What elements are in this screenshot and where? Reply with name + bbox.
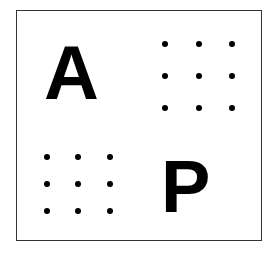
dot xyxy=(75,154,81,160)
dot xyxy=(75,181,81,187)
dot xyxy=(107,181,113,187)
dot xyxy=(229,73,235,79)
dot xyxy=(162,73,168,79)
letter-a: A xyxy=(44,35,99,111)
dot xyxy=(44,181,50,187)
dot xyxy=(229,105,235,111)
dot xyxy=(75,208,81,214)
letter-p: P xyxy=(161,150,210,224)
dot xyxy=(107,154,113,160)
dot xyxy=(107,208,113,214)
dot xyxy=(196,73,202,79)
dot xyxy=(162,41,168,47)
dot xyxy=(196,105,202,111)
dot xyxy=(162,105,168,111)
dot xyxy=(44,208,50,214)
dot xyxy=(229,41,235,47)
dot xyxy=(44,154,50,160)
dot xyxy=(196,41,202,47)
